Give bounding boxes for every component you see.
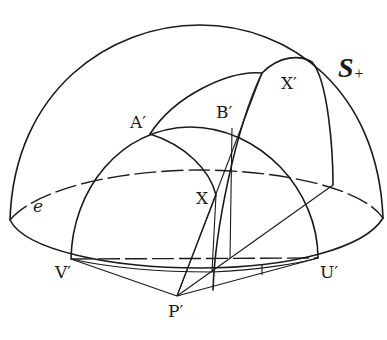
label-U-prime: U′	[320, 264, 338, 281]
ellipse-front-half	[10, 218, 383, 268]
label-ellipse-e: e	[33, 198, 43, 215]
label-B-prime: B′	[216, 104, 232, 121]
hemisphere-diagram: S+ e A′ B′ X X′ V′ U′ P′	[0, 0, 387, 340]
line-V-to-P	[71, 259, 177, 296]
label-X-prime: X′	[281, 75, 297, 92]
chord-lower	[71, 258, 318, 272]
chord-V-U	[71, 258, 318, 259]
label-S-plus: S+	[338, 54, 364, 82]
label-P-prime: P′	[168, 303, 183, 320]
inner-arc-V-U	[71, 127, 318, 259]
diagram-drawing	[0, 0, 387, 340]
line-X-to-P	[177, 195, 216, 296]
label-A-prime: A′	[130, 114, 146, 131]
line-U-to-P	[177, 258, 318, 296]
vertical-B-drop	[230, 128, 232, 259]
arc-A-to-Xprime	[150, 73, 262, 134]
label-V-prime: V′	[55, 264, 71, 281]
label-X: X	[196, 190, 208, 207]
arc-A-to-X	[150, 134, 216, 195]
